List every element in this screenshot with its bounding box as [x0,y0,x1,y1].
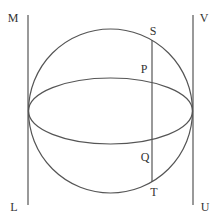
diagram-figure [0,0,221,221]
label-V: V [200,12,209,24]
sphere-circle [29,29,193,193]
label-M: M [8,12,19,24]
label-T: T [150,186,157,198]
label-U: U [201,201,210,213]
label-P: P [141,63,148,75]
label-S: S [150,25,157,37]
label-Q: Q [141,151,150,163]
diagram-canvas: M V L U S P Q T [0,0,221,221]
label-L: L [10,201,17,213]
equator-ellipse [29,78,193,144]
